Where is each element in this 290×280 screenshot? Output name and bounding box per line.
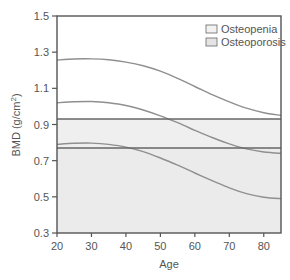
- x-tick-label: 60: [189, 240, 201, 252]
- y-tick-label: 0.3: [34, 227, 49, 239]
- x-tick-label: 40: [120, 240, 132, 252]
- y-tick-label: 0.9: [34, 119, 49, 131]
- legend-swatch-osteoporosis: [206, 38, 217, 46]
- legend-swatch-osteopenia: [206, 25, 217, 33]
- x-tick-label: 20: [51, 240, 63, 252]
- bmd-curve-1: [57, 59, 281, 116]
- y-tick-label: 0.5: [34, 191, 49, 203]
- legend-label-osteoporosis: Osteoporosis: [221, 36, 286, 48]
- x-tick-label: 30: [85, 240, 97, 252]
- x-axis-ticks: 20304050607080: [51, 233, 270, 252]
- threshold-shading: [57, 119, 281, 233]
- x-tick-label: 80: [258, 240, 270, 252]
- legend: OsteopeniaOsteoporosis: [206, 23, 286, 48]
- y-tick-label: 1.1: [34, 82, 49, 94]
- y-axis-label: BMD (g/cm2): [9, 93, 22, 156]
- legend-label-osteopenia: Osteopenia: [221, 23, 278, 35]
- y-tick-label: 1.5: [34, 10, 49, 22]
- y-tick-label: 0.7: [34, 155, 49, 167]
- x-axis-label: Age: [159, 258, 179, 270]
- y-tick-label: 1.3: [34, 46, 49, 58]
- x-tick-label: 50: [154, 240, 166, 252]
- y-axis-ticks: 0.30.50.70.91.11.31.5: [34, 10, 57, 239]
- x-tick-label: 70: [223, 240, 235, 252]
- bmd-chart: 0.30.50.70.91.11.31.5 20304050607080 Ost…: [0, 0, 290, 280]
